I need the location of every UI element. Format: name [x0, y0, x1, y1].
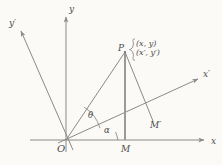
axis-label-x-prime: x′: [203, 70, 210, 79]
axis-label-x: x: [211, 137, 216, 146]
coordinate-brace: [129, 39, 135, 60]
point-label-m: M: [121, 145, 130, 154]
axis-label-y: y: [69, 5, 74, 14]
angle-arc-alpha: [116, 132, 118, 140]
coordinate-primed: (x′, y′): [136, 49, 160, 57]
point-label-m-prime: M′: [150, 121, 161, 130]
point-label-origin: O: [57, 144, 65, 154]
angle-label-theta: θ: [88, 111, 93, 120]
point-label-p: P: [118, 44, 124, 53]
geometry-figure: y x x′ y′ P M M′ O θ α (x, y) (x′, y′): [0, 0, 222, 165]
coordinate-pair-group: (x, y) (x′, y′): [136, 40, 160, 57]
coordinate-unprimed: (x, y): [136, 40, 160, 48]
angle-label-alpha: α: [104, 126, 110, 135]
segment-OP: [66, 52, 125, 140]
x-prime-axis-line: [58, 79, 198, 143]
point-P-marker: [124, 51, 126, 53]
y-prime-axis-line: [21, 31, 73, 150]
figure-canvas: [0, 0, 222, 165]
axis-label-y-prime: y′: [9, 19, 16, 28]
